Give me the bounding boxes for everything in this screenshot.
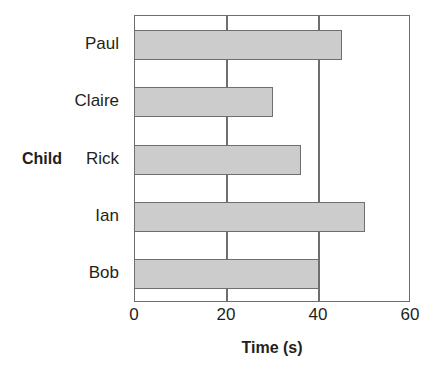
plot-area bbox=[134, 15, 410, 302]
bar-bob bbox=[134, 259, 320, 289]
bar-chart: Child PaulClaireRickIanBob 0204060 Time … bbox=[0, 0, 441, 379]
x-tick-label-20: 20 bbox=[217, 305, 236, 325]
x-tick-label-40: 40 bbox=[309, 305, 328, 325]
x-tick-label-60: 60 bbox=[401, 305, 420, 325]
y-tick-label-claire: Claire bbox=[75, 92, 119, 109]
y-tick-label-paul: Paul bbox=[85, 35, 119, 52]
x-axis-title: Time (s) bbox=[134, 339, 410, 357]
x-tick-labels: 0204060 bbox=[0, 305, 441, 333]
y-tick-label-bob: Bob bbox=[89, 264, 119, 281]
bar-claire bbox=[134, 87, 274, 117]
y-tick-label-rick: Rick bbox=[86, 150, 119, 167]
y-tick-label-ian: Ian bbox=[95, 207, 119, 224]
bar-ian bbox=[134, 202, 366, 232]
bar-paul bbox=[134, 30, 343, 60]
bar-rick bbox=[134, 145, 301, 175]
x-tick-label-0: 0 bbox=[129, 305, 138, 325]
